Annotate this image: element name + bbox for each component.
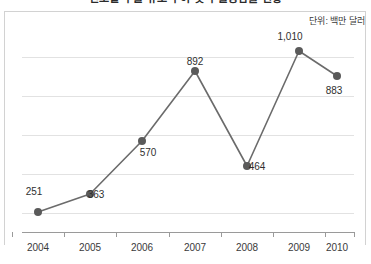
tickmark-5 bbox=[273, 232, 274, 237]
gridline-1 bbox=[22, 96, 354, 97]
x-axis-line bbox=[22, 232, 354, 233]
gridline-4 bbox=[22, 213, 354, 214]
x-axis-label-2009: 2009 bbox=[288, 242, 310, 253]
tickmark-4 bbox=[221, 232, 222, 237]
tickmark-1 bbox=[64, 232, 65, 237]
x-axis-label-2005: 2005 bbox=[79, 242, 101, 253]
x-axis-label-2008: 2008 bbox=[236, 242, 258, 253]
gridline-2 bbox=[22, 135, 354, 136]
data-point-label: 464 bbox=[249, 161, 266, 172]
data-point-label: 363 bbox=[88, 189, 105, 200]
x-axis-label-2007: 2007 bbox=[184, 242, 206, 253]
chart-title: 연도별 수출 규모 추이 및 수출증감률 현황 bbox=[0, 0, 371, 5]
tickmark-3 bbox=[169, 232, 170, 237]
tickmark-2 bbox=[116, 232, 117, 237]
tickmark-6 bbox=[325, 232, 326, 237]
chart-container: 연도별 수출 규모 추이 및 수출증감률 현황 단위: 백만 달러 251363… bbox=[0, 0, 371, 264]
data-point-label: 892 bbox=[187, 56, 204, 67]
x-axis-label-2004: 2004 bbox=[27, 242, 49, 253]
data-point-label: 570 bbox=[140, 147, 157, 158]
tickmark-0 bbox=[12, 232, 13, 237]
gridline-3 bbox=[22, 174, 354, 175]
x-axis-label-2006: 2006 bbox=[131, 242, 153, 253]
plot-area bbox=[22, 22, 354, 232]
data-point-label: 251 bbox=[26, 186, 43, 197]
tickmark-7 bbox=[354, 232, 355, 237]
data-point-label: 883 bbox=[326, 85, 343, 96]
x-axis-label-2010: 2010 bbox=[326, 242, 348, 253]
data-point-label: 1,010 bbox=[277, 31, 302, 42]
